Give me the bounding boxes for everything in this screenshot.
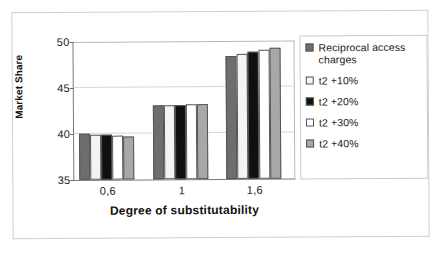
legend-item: Reciprocal access charges: [305, 41, 422, 66]
y-tick-label: 40: [48, 128, 70, 140]
legend-swatch-icon: [306, 118, 314, 126]
plot-wrapper: Market Share 35404550 0,611,6 Degree of …: [0, 0, 444, 254]
legend-swatch-icon: [306, 97, 314, 105]
y-tick-label: 35: [48, 174, 70, 186]
legend-label: t2 +20%: [319, 95, 359, 107]
x-tick-label: 0,6: [100, 185, 116, 197]
legend-label: Reciprocal access charges: [318, 41, 422, 66]
bar: [175, 105, 186, 179]
legend-swatch-icon: [306, 76, 314, 84]
bar: [123, 136, 134, 179]
legend-label: t2 +10%: [319, 74, 359, 86]
bar-series-container: [73, 41, 294, 180]
legend-label: t2 +30%: [319, 116, 359, 128]
chart-figure: Market Share 35404550 0,611,6 Degree of …: [0, 0, 444, 254]
bar: [248, 51, 260, 178]
legend-label: t2 +40%: [319, 137, 359, 149]
bar: [226, 56, 238, 179]
bar-group: [225, 41, 283, 179]
bar: [259, 49, 271, 178]
y-tick-mark: [70, 180, 74, 181]
chart-legend: Reciprocal access chargest2 +10%t2 +20%t…: [299, 35, 428, 180]
x-axis-ticks: 0,611,6: [73, 184, 295, 201]
bar: [164, 105, 175, 179]
bar: [112, 135, 123, 179]
legend-item: t2 +20%: [306, 95, 423, 108]
bar: [186, 105, 197, 180]
bar-group: [78, 42, 136, 180]
bar: [101, 135, 112, 180]
legend-swatch-icon: [305, 43, 313, 51]
bar: [237, 54, 249, 179]
bar: [197, 104, 208, 179]
x-tick-label: 1,6: [247, 184, 263, 196]
y-tick-label: 50: [47, 36, 69, 48]
bar: [153, 106, 164, 180]
y-tick-mark: [69, 42, 73, 43]
y-tick-mark: [70, 134, 74, 135]
legend-item: t2 +30%: [306, 116, 423, 129]
x-tick-label: 1: [179, 184, 185, 196]
bar-group: [152, 41, 210, 179]
y-axis-ticks: 35404550: [44, 42, 70, 181]
bar: [90, 135, 101, 180]
legend-swatch-icon: [306, 139, 314, 147]
y-tick-label: 45: [48, 82, 70, 94]
y-axis-title: Market Share: [13, 52, 24, 122]
legend-item: t2 +40%: [306, 137, 423, 150]
bar: [270, 48, 282, 179]
x-axis-title: Degree of substitutability: [50, 202, 318, 218]
legend-item: t2 +10%: [306, 74, 423, 87]
bar: [79, 134, 90, 180]
y-tick-mark: [70, 88, 74, 89]
